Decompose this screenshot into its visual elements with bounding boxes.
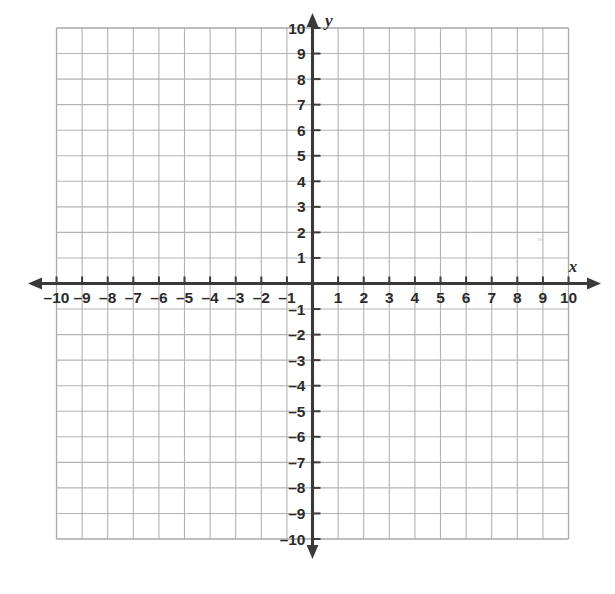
y-axis-tick-label: –9 [288, 505, 306, 522]
y-axis-tick-label: 3 [297, 198, 306, 215]
y-axis-tick-label: –4 [288, 377, 306, 394]
x-axis-tick-label: –6 [150, 289, 168, 306]
y-axis-tick-label: 5 [297, 147, 306, 164]
x-axis-tick-label: 6 [462, 289, 471, 306]
x-axis-name-label: x [568, 257, 578, 276]
scan-artifact-mark [538, 238, 543, 241]
coordinate-plane-svg: –10–9–8–7–6–5–4–3–2–112345678910 1098765… [0, 0, 615, 594]
y-axis-tick-label: 6 [297, 122, 306, 139]
coordinate-plane: –10–9–8–7–6–5–4–3–2–112345678910 1098765… [0, 0, 615, 594]
x-axis-tick-label: 8 [513, 289, 522, 306]
x-axis-tick-label: 7 [487, 289, 496, 306]
x-axis-tick-label: –8 [99, 289, 117, 306]
y-axis-tick-label: –7 [288, 454, 305, 471]
x-axis-left-arrowhead [28, 278, 42, 290]
x-axis-tick-label: –3 [227, 289, 245, 306]
y-axis-tick-label: –3 [288, 352, 306, 369]
y-axis-tick-label: 4 [297, 173, 306, 190]
y-axis-tick-label: 1 [297, 249, 306, 266]
y-axis-name-label: y [323, 11, 333, 30]
x-axis-tick-label: –4 [201, 289, 219, 306]
x-axis-tick-label: 10 [560, 289, 577, 306]
y-axis-tick-label: –1 [288, 301, 306, 318]
y-axis-tick-label: 10 [288, 20, 305, 37]
y-axis-tick-label: 9 [297, 45, 306, 62]
x-axis-tick-label: 2 [359, 289, 368, 306]
x-axis-right-arrowhead [587, 278, 601, 290]
x-axis-tick-label: –5 [176, 289, 194, 306]
x-axis-tick-label: –10 [44, 289, 70, 306]
y-axis-tick-label: 8 [297, 71, 306, 88]
y-axis-tick-label: –2 [288, 326, 305, 343]
y-axis-top-arrowhead [307, 13, 319, 27]
y-axis-tick-label: –6 [288, 428, 306, 445]
y-axis-bottom-arrowhead [307, 545, 319, 559]
y-axis-tick-label: –10 [280, 531, 306, 548]
x-axis-tick-label: 1 [334, 289, 343, 306]
y-axis-tick-label: –8 [288, 479, 306, 496]
x-axis-tick-labels: –10–9–8–7–6–5–4–3–2–112345678910 [44, 289, 578, 306]
y-axis-tick-label: 7 [297, 96, 306, 113]
axes [28, 13, 601, 559]
x-axis-tick-label: –9 [73, 289, 91, 306]
x-axis-tick-label: –7 [125, 289, 142, 306]
x-axis-tick-label: 5 [436, 289, 445, 306]
y-axis-tick-label: –5 [288, 403, 306, 420]
x-axis-tick-label: –2 [253, 289, 270, 306]
x-axis-tick-label: 4 [411, 289, 420, 306]
x-axis-tick-label: 3 [385, 289, 394, 306]
y-axis-tick-label: 2 [297, 224, 306, 241]
x-axis-tick-label: 9 [539, 289, 548, 306]
